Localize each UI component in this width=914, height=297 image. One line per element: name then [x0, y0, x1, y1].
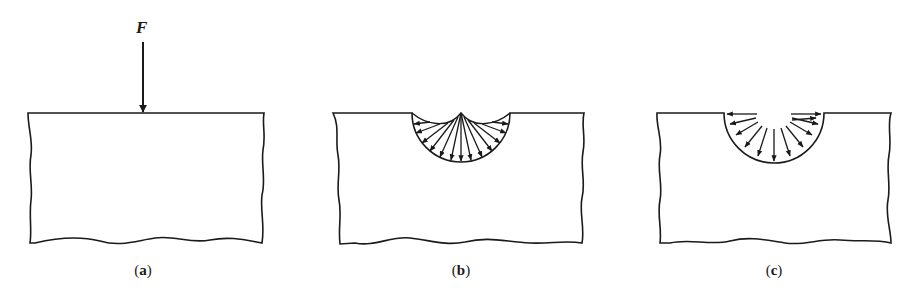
panel-c: (c): [657, 113, 891, 279]
block-a-outline: [28, 113, 264, 244]
caption-c: (c): [766, 262, 783, 279]
stress-arrows-c: [727, 114, 821, 161]
caption-b: (b): [452, 262, 470, 279]
force-label: F: [135, 18, 148, 37]
stress-arrows-b: [414, 113, 508, 161]
figure-canvas: F (a) (b): [0, 0, 914, 297]
panel-a: F (a): [28, 18, 264, 279]
block-b-outline: [333, 113, 584, 244]
caption-a: (a): [134, 262, 152, 279]
panel-b: (b): [333, 113, 584, 279]
